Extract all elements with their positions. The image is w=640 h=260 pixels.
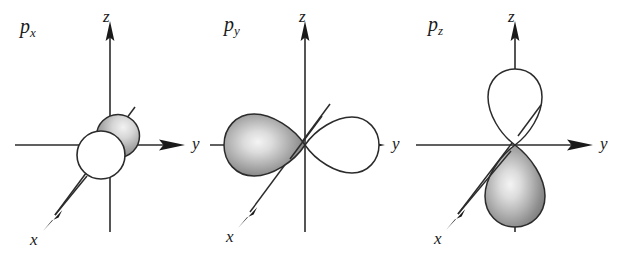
panel-px: px	[0, 0, 213, 260]
orbital-lobe-white-pz	[488, 69, 542, 145]
axis-y-line-pz	[416, 140, 593, 151]
orbital-diagram-py	[202, 0, 415, 260]
orbital-lobe-shaded-py	[224, 114, 305, 176]
axis-label-y-py: y	[392, 135, 400, 152]
axis-label-z-pz: z	[508, 8, 515, 25]
orbital-lobe-shaded-pz	[485, 145, 545, 227]
axis-x-front-segment-px	[55, 176, 87, 215]
panel-py: py	[202, 0, 415, 260]
panel-pz: pz	[408, 0, 621, 260]
axis-label-z-py: z	[299, 8, 306, 25]
orbital-diagram-pz	[408, 0, 621, 260]
axis-label-x-px: x	[30, 231, 38, 248]
orbital-diagram-px	[0, 0, 213, 260]
axis-z-line-py	[301, 21, 310, 232]
axis-label-x-pz: x	[434, 230, 442, 247]
orbital-lobe-white-py	[305, 117, 379, 173]
axis-label-y-px: y	[192, 135, 200, 152]
axis-label-z-px: z	[103, 8, 110, 25]
orbital-figure: px	[0, 0, 640, 260]
axis-label-y-pz: y	[600, 135, 608, 152]
axis-label-x-py: x	[226, 228, 234, 245]
orbital-lobe-white-px	[77, 131, 125, 179]
